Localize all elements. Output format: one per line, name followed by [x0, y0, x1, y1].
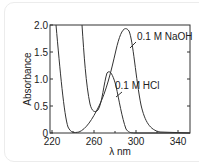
- y-tick-2-0: 2.0: [34, 20, 48, 31]
- y-axis-title: Absorbance: [22, 52, 33, 106]
- x-tick-220: 220: [44, 136, 61, 147]
- y-tick-labels: 0 0.5 1.0 1.5 2.0: [34, 20, 48, 139]
- naoh-label: 0.1 M NaOH: [137, 31, 193, 42]
- y-tick-1-5: 1.5: [34, 47, 48, 58]
- x-tick-340: 340: [170, 136, 187, 147]
- absorbance-chart: 0 0.5 1.0 1.5 2.0 220 260 300 340 λ nm A…: [0, 0, 199, 167]
- y-tick-0-5: 0.5: [34, 101, 48, 112]
- naoh-leader-line: [130, 42, 136, 48]
- y-tick-1-0: 1.0: [34, 74, 48, 85]
- hcl-label: 0.1 M HCl: [115, 80, 159, 91]
- x-tick-260: 260: [86, 136, 103, 147]
- x-axis-title: λ nm: [109, 146, 131, 157]
